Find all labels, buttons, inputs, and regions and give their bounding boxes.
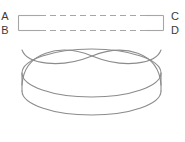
geometry-diagram: A B C D: [0, 0, 185, 142]
vertex-label-b: B: [1, 24, 8, 36]
rectangular-strip: A B C D: [1, 10, 179, 37]
figure-canvas: A B C D: [0, 0, 185, 142]
vertex-label-c: C: [171, 10, 179, 22]
cylinder-with-crossing-arcs: [22, 49, 161, 115]
band-arc-left-to-right: [22, 50, 161, 85]
cylinder-bottom-ellipse: [22, 91, 161, 115]
vertex-label-a: A: [1, 10, 9, 22]
vertex-label-d: D: [171, 24, 179, 36]
